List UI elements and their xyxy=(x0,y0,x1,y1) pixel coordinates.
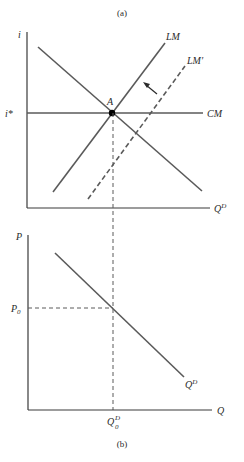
lm-prime-label: LM′ xyxy=(186,55,204,66)
panel-a-caption: (a) xyxy=(117,8,127,18)
demand-label: QD xyxy=(185,378,197,390)
islm-diagram: (a) i QD CM i* LM LM′ A P Q xyxy=(0,0,244,462)
is-curve xyxy=(38,47,202,191)
panel-a-x-label: QD xyxy=(214,202,226,214)
i-star-label: i* xyxy=(5,108,13,119)
point-a-label: A xyxy=(106,96,114,107)
q0-sub-label: 0 xyxy=(115,423,119,431)
panel-b: P Q QD P0 Q D 0 xyxy=(10,231,225,431)
p0-label: P0 xyxy=(10,303,21,316)
lm-prime-curve xyxy=(88,66,185,199)
cm-label: CM xyxy=(207,108,223,119)
panel-a: i QD CM i* LM LM′ A xyxy=(5,29,226,214)
q0-sup-label: D xyxy=(114,414,120,422)
panel-b-caption: (b) xyxy=(117,439,128,449)
panel-a-y-label: i xyxy=(18,29,21,40)
panel-b-x-label: Q xyxy=(217,405,225,416)
demand-curve xyxy=(55,253,184,377)
panel-b-y-label: P xyxy=(15,231,22,242)
equilibrium-point-a xyxy=(109,110,115,116)
shift-arrow-icon xyxy=(143,82,157,94)
lm-label: LM xyxy=(165,31,181,42)
q0-label: Q xyxy=(107,416,115,427)
